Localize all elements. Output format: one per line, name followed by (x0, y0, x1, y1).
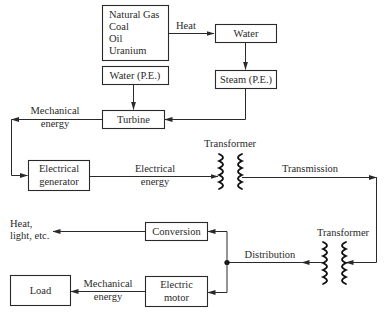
electrical-energy-label-2: energy (141, 176, 170, 187)
transmission-label: Transmission (282, 163, 339, 174)
mechanical-energy-label-1: Mechanical (31, 105, 80, 116)
water-pe-label: Water (P.E.) (110, 70, 161, 82)
electric-motor-box: Electric motor (146, 277, 208, 307)
generator-label-1: Electrical (39, 163, 79, 174)
fuel-uranium: Uranium (109, 45, 146, 56)
transformer-1-primary-coil-icon (219, 154, 223, 189)
transformer-1: Transformer (204, 138, 257, 189)
fuel-coal: Coal (109, 21, 129, 32)
fuel-natural-gas: Natural Gas (109, 9, 159, 20)
electrical-energy-label-1: Electrical (135, 163, 175, 174)
transformer-2-label: Transformer (317, 227, 370, 238)
water-pe-box: Water (P.E.) (103, 67, 169, 85)
energy-flow-diagram: Natural Gas Coal Oil Uranium Heat Water … (0, 0, 384, 317)
steam-to-turbine-arrow (165, 89, 246, 120)
load-box: Load (11, 276, 71, 306)
transformer-1-secondary-coil-icon (238, 154, 242, 189)
generator-label-2: generator (39, 176, 79, 187)
turbine-label: Turbine (117, 114, 150, 125)
water-box: Water (216, 25, 277, 43)
mechanical-energy-2-label-2: energy (94, 291, 123, 302)
transformer-2-secondary-coil-icon (342, 242, 346, 284)
motor-label-2: motor (164, 292, 190, 303)
fuel-oil: Oil (109, 33, 123, 44)
steam-box: Steam (P.E.) (216, 71, 277, 89)
motor-label-1: Electric (160, 279, 193, 290)
fuels-box: Natural Gas Coal Oil Uranium (103, 6, 169, 61)
steam-label: Steam (P.E.) (220, 74, 273, 86)
transformer-1-label: Transformer (204, 138, 257, 149)
water-label: Water (234, 28, 259, 39)
transformer-2: Transformer (317, 227, 370, 284)
heat-label: Heat (176, 20, 196, 31)
mechanical-energy-2-label-1: Mechanical (84, 278, 133, 289)
generator-box: Electrical generator (29, 161, 90, 191)
conversion-label: Conversion (152, 226, 201, 237)
heat-light-label-1: Heat, (10, 218, 32, 229)
junction-to-motor-arrow (208, 263, 227, 293)
heat-light-label-2: light, etc. (10, 230, 49, 241)
transformer-2-primary-coil-icon (323, 242, 327, 284)
load-label: Load (30, 285, 52, 296)
junction-to-conversion-arrow (208, 232, 227, 263)
conversion-box: Conversion (146, 223, 208, 241)
turbine-box: Turbine (103, 111, 165, 129)
mechanical-energy-label-2: energy (41, 118, 70, 129)
distribution-label: Distribution (245, 249, 297, 260)
